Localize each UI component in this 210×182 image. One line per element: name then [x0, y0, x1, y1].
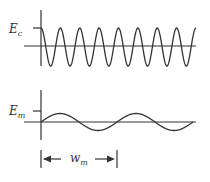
modulation-diagram: Ec Em wm	[0, 0, 210, 182]
carrier-wave	[41, 28, 196, 66]
carrier-panel: Ec	[8, 10, 196, 66]
carrier-amplitude-label: Ec	[8, 22, 23, 38]
left-arrow-icon	[43, 156, 51, 163]
right-arrow-icon	[107, 156, 115, 163]
modulating-panel: Em	[8, 90, 196, 140]
period-marker: wm	[41, 150, 117, 168]
modulating-amplitude-label: Em	[8, 104, 26, 120]
period-label: wm	[70, 151, 88, 167]
